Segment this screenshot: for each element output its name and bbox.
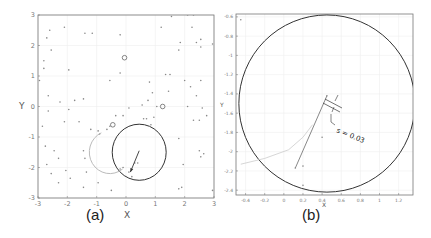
- figure-canvas: -3-2-10123-3-2-10123-0.4-0.200.20.40.60.…: [0, 0, 431, 238]
- data-point: [169, 74, 171, 76]
- xlabel-a: X: [124, 210, 130, 220]
- data-point: [321, 136, 323, 138]
- data-point: [206, 115, 208, 117]
- data-point: [187, 106, 189, 108]
- data-point: [295, 167, 297, 169]
- data-point: [128, 107, 130, 109]
- data-point: [119, 34, 121, 36]
- data-point: [69, 177, 71, 179]
- data-point: [45, 145, 47, 147]
- x-tick-label: 0.8: [357, 198, 364, 203]
- panel-label-a: (a): [86, 206, 104, 223]
- data-point: [122, 115, 124, 117]
- y-tick-label: -3: [29, 194, 35, 202]
- data-point: [128, 171, 130, 173]
- data-point: [193, 14, 195, 16]
- data-point: [200, 80, 202, 82]
- data-point: [83, 98, 85, 100]
- data-point: [106, 129, 108, 131]
- data-point: [302, 165, 304, 167]
- y-tick-label: 3: [31, 11, 35, 19]
- data-point: [147, 100, 149, 102]
- data-point: [149, 81, 151, 83]
- data-point: [91, 33, 93, 35]
- data-point: [240, 19, 242, 21]
- x-tick-label: -2: [64, 200, 70, 208]
- data-point: [84, 33, 86, 35]
- data-point: [212, 190, 214, 192]
- y-tick-label: -2.2: [224, 169, 233, 174]
- obstacle-marker: [111, 123, 116, 128]
- data-point: [58, 158, 60, 160]
- y-tick-label: -1: [229, 53, 234, 58]
- data-point: [115, 115, 117, 117]
- y-tick-label: -1.2: [224, 72, 233, 77]
- data-point: [68, 109, 70, 111]
- data-point: [153, 116, 155, 118]
- y-tick-label: -2: [229, 149, 234, 154]
- data-point: [64, 121, 66, 123]
- data-point: [212, 43, 214, 45]
- data-point: [59, 101, 61, 103]
- data-point: [150, 124, 152, 126]
- data-point: [199, 150, 201, 152]
- data-point: [50, 173, 52, 175]
- y-tick-label: -1.4: [224, 91, 233, 96]
- data-point: [187, 14, 189, 16]
- y-tick-label: 1: [31, 72, 35, 80]
- data-point: [178, 188, 180, 190]
- data-point: [83, 150, 85, 152]
- data-point: [200, 156, 202, 158]
- plot-frame: [236, 14, 413, 195]
- sensing-circle: [239, 15, 415, 192]
- data-point: [182, 164, 184, 166]
- previous-path-arc: [241, 125, 313, 164]
- data-point: [181, 187, 183, 189]
- y-tick-label: -2: [29, 164, 35, 172]
- data-point: [168, 90, 170, 92]
- data-point: [97, 130, 99, 132]
- arrow-head-icon: [130, 168, 133, 172]
- data-point: [326, 95, 328, 97]
- x-tick-label: 3: [212, 200, 216, 208]
- data-point: [47, 95, 49, 97]
- data-point: [65, 170, 67, 172]
- data-point: [47, 110, 49, 112]
- data-point: [119, 72, 121, 74]
- data-point: [171, 16, 173, 18]
- data-point: [178, 49, 180, 51]
- data-point: [196, 42, 198, 44]
- data-point: [199, 119, 201, 121]
- x-tick-label: 2: [183, 200, 187, 208]
- distance-marker-line: [325, 99, 342, 108]
- x-tick-label: -3: [35, 200, 41, 208]
- data-point: [84, 158, 86, 160]
- data-point: [109, 80, 111, 82]
- data-point: [146, 118, 148, 120]
- data-point: [200, 46, 202, 48]
- x-tick-label: 1: [153, 200, 157, 208]
- figure: -3-2-10123-3-2-10123-0.4-0.200.20.40.60.…: [0, 0, 431, 238]
- distance-arrow-top: [335, 95, 338, 101]
- data-point: [122, 167, 124, 169]
- data-point: [179, 42, 181, 44]
- y-tick-label: -1.8: [224, 130, 233, 135]
- x-tick-label: -0.4: [241, 198, 250, 203]
- data-point: [302, 185, 304, 187]
- x-tick-label: 0: [124, 200, 128, 208]
- data-point: [143, 118, 145, 120]
- data-point: [152, 92, 154, 94]
- x-tick-label: 0: [282, 198, 285, 203]
- data-point: [39, 80, 41, 82]
- data-point: [160, 26, 162, 28]
- y-tick-label: -2.4: [224, 188, 233, 193]
- data-point: [43, 68, 45, 70]
- y-tick-label: 2: [31, 42, 35, 50]
- data-point: [200, 39, 202, 41]
- data-point: [58, 182, 60, 184]
- data-point: [201, 107, 203, 109]
- sensing-circle: [112, 124, 166, 180]
- y-tick-label: -1.6: [224, 111, 233, 116]
- data-point: [64, 26, 66, 28]
- data-point: [131, 176, 133, 178]
